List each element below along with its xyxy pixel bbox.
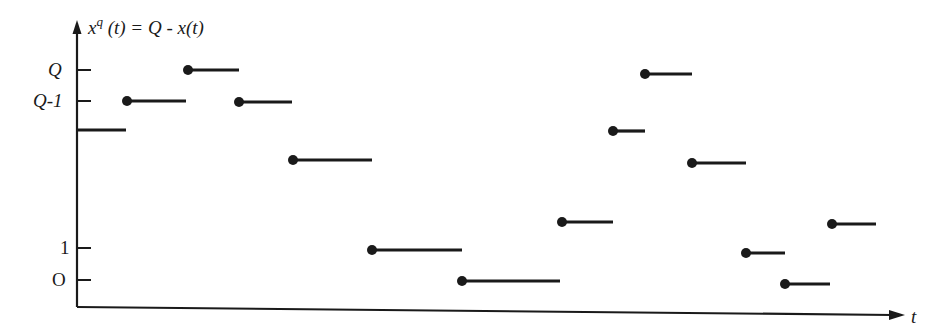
jump-dot-icon [741,248,751,258]
y-axis-arrow-icon [73,20,82,34]
jump-dot-icon [122,96,132,106]
step-segment [741,248,785,258]
jump-dot-icon [183,65,193,75]
y-tick-label: Q-1 [33,90,63,111]
step-segment [780,279,830,289]
jump-dot-icon [780,279,790,289]
jump-dot-icon [640,69,650,79]
y-tick-label: O [52,269,66,290]
step-segment [122,96,186,106]
y-axis-title: xq (t) = Q - x(t) [87,14,204,39]
jump-dot-icon [288,155,298,165]
y-tick-0: O [52,269,91,290]
x-axis-label: t [911,306,917,327]
step-segments [78,65,876,289]
step-segment [640,69,692,79]
y-tick-label: Q [48,59,62,80]
step-segment [557,217,613,227]
jump-dot-icon [457,276,467,286]
y-tick-Q: Q [48,59,91,80]
jump-dot-icon [234,97,244,107]
queue-step-diagram: xq (t) = Q - x(t) t Q Q-1 1 O [0,0,943,335]
y-tick-1: 1 [60,237,91,258]
x-axis-arrow-icon [889,310,905,320]
step-segment [288,155,372,165]
jump-dot-icon [367,245,377,255]
y-tick-Q-minus-1: Q-1 [33,90,91,111]
y-tick-label: 1 [60,237,70,258]
step-segment [608,126,645,136]
step-segment [234,97,292,107]
step-segment [457,276,560,286]
step-segment [687,158,746,168]
jump-dot-icon [687,158,697,168]
step-segment [827,219,876,229]
x-axis [77,307,893,315]
step-segment [183,65,239,75]
jump-dot-icon [827,219,837,229]
step-segment [367,245,462,255]
jump-dot-icon [557,217,567,227]
jump-dot-icon [608,126,618,136]
